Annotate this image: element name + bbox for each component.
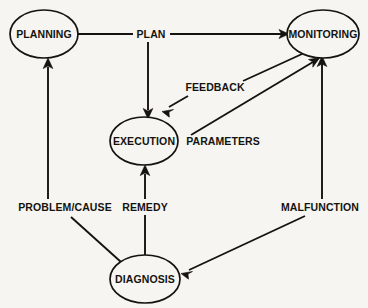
node-label-monitoring: MONITORING [288, 29, 357, 40]
arrowhead-problemcause-to-planning [43, 58, 53, 69]
edge-label-problem-cause: PROBLEM/CAUSE [17, 202, 113, 213]
node-label-execution: EXECUTION [113, 136, 175, 147]
edge-diagnosis-to-problemcause [71, 217, 121, 262]
diagram-svg [0, 0, 368, 308]
arrowhead-malfunction-to-diagnosis [181, 272, 193, 280]
edge-diagnosis-to-malfunction [189, 216, 305, 270]
edge-label-parameters: PARAMETERS [185, 136, 262, 147]
arrowhead-feedback-to-execution [162, 110, 174, 118]
edge-label-remedy: REMEDY [121, 202, 170, 213]
diagram-canvas: PLANNING MONITORING EXECUTION DIAGNOSIS … [0, 0, 368, 308]
edge-feedback-lower-segment [169, 96, 188, 107]
edge-label-plan: PLAN [135, 29, 167, 40]
arrowhead-remedy-to-execution [140, 165, 150, 176]
edge-feedback-upper-segment [243, 54, 302, 81]
node-label-planning: PLANNING [16, 29, 72, 40]
node-label-diagnosis: DIAGNOSIS [115, 274, 175, 285]
edge-parameters-segment [191, 62, 313, 135]
edge-label-malfunction: MALFUNCTION [279, 202, 360, 213]
edge-label-feedback: FEEDBACK [184, 82, 246, 93]
